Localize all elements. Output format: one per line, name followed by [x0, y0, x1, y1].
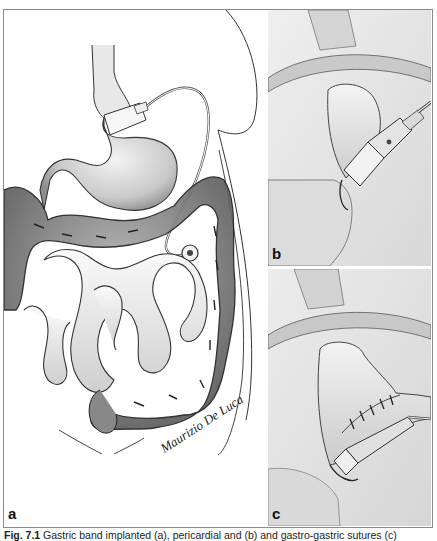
panel-c-illustration: c: [268, 269, 431, 526]
panel-b-illustration: b: [268, 10, 431, 266]
panel-a-illustration: Maurizio De Luca a: [4, 10, 266, 526]
abdomen-illustration: [4, 10, 266, 526]
band-closeup-illustration: [268, 10, 431, 266]
sutures-closeup-illustration: [268, 269, 431, 526]
panel-label-a: a: [8, 505, 16, 522]
figure-caption-text: Gastric band implanted (a), pericardial …: [43, 529, 397, 541]
figure-frame: Maurizio De Luca a: [3, 9, 433, 528]
panel-label-b: b: [272, 245, 281, 262]
figure-caption: Fig. 7.1 Gastric band implanted (a), per…: [4, 529, 397, 541]
panel-label-c: c: [272, 505, 280, 522]
figure-number: Fig. 7.1: [4, 529, 40, 541]
